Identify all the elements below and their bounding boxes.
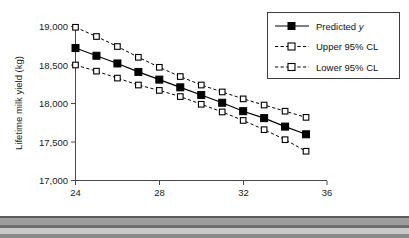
data-point-open-square [240, 96, 246, 102]
chart-legend: Predicted y Upper 95% CL Lower 95% CL [268, 13, 400, 79]
legend-label-predicted: Predicted y [316, 21, 365, 32]
chart-figure: 19,000 18,500 18,000 17,500 17,000 24 28… [0, 0, 409, 204]
data-point-open-square [94, 68, 100, 74]
y-tick-label-18500: 18,500 [39, 60, 68, 71]
data-point-filled-square [240, 108, 247, 115]
legend-entry-upper-cl[interactable]: Upper 95% CL [275, 41, 378, 52]
x-axis-title: Age at first calving (months) [142, 202, 260, 204]
data-point-open-square [73, 24, 79, 30]
x-tick-label-32: 32 [238, 187, 249, 198]
data-point-filled-square [219, 99, 226, 106]
data-point-open-square [303, 148, 309, 154]
data-point-filled-square [72, 45, 79, 52]
milk-yield-line-chart: 19,000 18,500 18,000 17,500 17,000 24 28… [0, 0, 409, 204]
data-point-open-square [136, 82, 142, 88]
data-point-filled-square [156, 76, 163, 83]
band-segment [0, 207, 409, 216]
x-tick-label-36: 36 [322, 187, 333, 198]
legend-entry-predicted[interactable]: Predicted y [275, 21, 365, 32]
y-tick-label-17000: 17,000 [39, 175, 68, 186]
data-point-filled-square [177, 84, 184, 91]
y-tick-label-18000: 18,000 [39, 98, 68, 109]
data-point-filled-square [303, 131, 310, 138]
band-segment [0, 218, 409, 225]
data-point-open-square [198, 101, 204, 107]
data-point-filled-square [93, 52, 100, 59]
data-point-open-square [219, 109, 225, 115]
legend-label-lower-cl: Lower 95% CL [316, 62, 378, 73]
data-point-open-square [282, 137, 288, 143]
data-point-filled-square [261, 115, 268, 122]
x-tick-label-28: 28 [154, 187, 165, 198]
legend-label-upper-cl: Upper 95% CL [316, 41, 378, 52]
data-point-open-square [261, 127, 267, 133]
data-point-open-square [157, 88, 163, 94]
data-point-open-square [261, 102, 267, 108]
data-point-filled-square [282, 123, 289, 130]
x-tick-label-24: 24 [70, 187, 81, 198]
y-tick-label-17500: 17,500 [39, 137, 68, 148]
legend-marker-filled-square [288, 23, 295, 30]
data-point-open-square [282, 108, 288, 114]
data-point-filled-square [198, 92, 205, 99]
data-point-open-square [115, 44, 121, 50]
data-point-open-square [136, 55, 142, 61]
data-point-filled-square [114, 60, 121, 67]
data-point-open-square [177, 94, 183, 100]
data-point-open-square [219, 89, 225, 95]
y-axis-title: Lifetime milk yield (kg) [13, 56, 24, 150]
data-point-filled-square [135, 68, 142, 75]
band-segment [0, 234, 409, 238]
data-point-open-square [73, 62, 79, 68]
legend-marker-open-square [288, 64, 295, 71]
legend-entry-lower-cl[interactable]: Lower 95% CL [275, 62, 378, 73]
data-point-open-square [198, 82, 204, 88]
data-point-open-square [115, 75, 121, 81]
y-tick-label-19000: 19,000 [39, 21, 68, 32]
scan-artifact-band [0, 207, 409, 238]
x-axis-ticks: 24 28 32 36 [70, 181, 332, 198]
data-point-open-square [157, 65, 163, 71]
data-point-open-square [303, 115, 309, 121]
y-axis-ticks: 19,000 18,500 18,000 17,500 17,000 [39, 21, 75, 186]
data-point-open-square [177, 74, 183, 80]
data-point-open-square [240, 118, 246, 124]
data-point-open-square [94, 34, 100, 40]
legend-marker-open-square [288, 43, 295, 50]
